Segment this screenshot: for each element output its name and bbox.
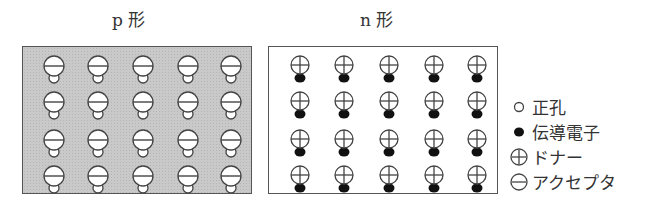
acceptor-minus-circle-icon	[506, 172, 532, 192]
donor-with-electron-icon	[462, 53, 492, 89]
legend-item-donor: ドナー	[506, 144, 616, 169]
hole-open-circle-icon	[506, 100, 532, 114]
acceptor-with-hole-icon	[39, 163, 69, 199]
p-type-panel	[22, 46, 252, 194]
donor-plus-circle-icon	[506, 147, 532, 167]
acceptor-with-hole-icon	[39, 89, 69, 125]
donor-with-electron-icon	[285, 53, 315, 89]
n-type-panel	[268, 46, 498, 194]
acceptor-with-hole-icon	[128, 163, 158, 199]
acceptor-with-hole-icon	[128, 89, 158, 125]
donor-with-electron-icon	[374, 89, 404, 125]
donor-with-electron-icon	[285, 163, 315, 199]
legend-item-electron: 伝導電子	[506, 119, 616, 144]
legend-label: 伝導電子	[532, 119, 600, 144]
acceptor-with-hole-icon	[173, 89, 203, 125]
donor-with-electron-icon	[374, 163, 404, 199]
donor-with-electron-icon	[462, 127, 492, 163]
acceptor-with-hole-icon	[173, 127, 203, 163]
legend: 正孔 伝導電子 ドナー アクセプタ	[506, 94, 616, 194]
acceptor-with-hole-icon	[216, 89, 246, 125]
legend-label: アクセプタ	[532, 169, 616, 194]
legend-label: ドナー	[532, 144, 583, 169]
p-type-title: p 形	[112, 6, 145, 31]
donor-with-electron-icon	[285, 89, 315, 125]
legend-item-hole: 正孔	[506, 94, 616, 119]
acceptor-with-hole-icon	[83, 53, 113, 89]
donor-with-electron-icon	[374, 53, 404, 89]
acceptor-with-hole-icon	[128, 127, 158, 163]
legend-label: 正孔	[532, 94, 566, 119]
acceptor-with-hole-icon	[173, 163, 203, 199]
n-type-title: n 形	[360, 6, 393, 31]
acceptor-with-hole-icon	[216, 127, 246, 163]
acceptor-with-hole-icon	[83, 163, 113, 199]
donor-with-electron-icon	[419, 53, 449, 89]
donor-with-electron-icon	[329, 53, 359, 89]
donor-with-electron-icon	[329, 127, 359, 163]
donor-with-electron-icon	[374, 127, 404, 163]
acceptor-with-hole-icon	[83, 127, 113, 163]
acceptor-with-hole-icon	[83, 89, 113, 125]
acceptor-with-hole-icon	[128, 53, 158, 89]
donor-with-electron-icon	[419, 89, 449, 125]
donor-with-electron-icon	[285, 127, 315, 163]
acceptor-with-hole-icon	[216, 163, 246, 199]
donor-with-electron-icon	[462, 163, 492, 199]
donor-with-electron-icon	[462, 89, 492, 125]
donor-with-electron-icon	[419, 163, 449, 199]
donor-with-electron-icon	[329, 163, 359, 199]
acceptor-with-hole-icon	[39, 53, 69, 89]
acceptor-with-hole-icon	[39, 127, 69, 163]
electron-filled-circle-icon	[506, 125, 532, 139]
acceptor-with-hole-icon	[216, 53, 246, 89]
donor-with-electron-icon	[419, 127, 449, 163]
legend-item-acceptor: アクセプタ	[506, 169, 616, 194]
donor-with-electron-icon	[329, 89, 359, 125]
acceptor-with-hole-icon	[173, 53, 203, 89]
